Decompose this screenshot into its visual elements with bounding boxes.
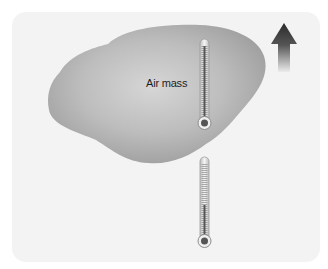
air-mass-label: Air mass [146,77,187,89]
thermometer-below-icon [198,157,211,248]
air-mass-blob [48,25,266,163]
thermometer-inside-icon [198,39,211,130]
diagram-canvas [0,0,328,269]
up-arrow-icon [271,23,297,72]
